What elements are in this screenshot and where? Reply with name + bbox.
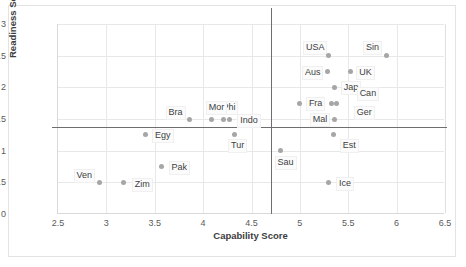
data-point[interactable] [159, 164, 164, 169]
data-point-label: Mor [206, 101, 228, 115]
data-point[interactable] [97, 180, 102, 185]
data-point-label: Indo [237, 114, 261, 128]
data-point[interactable] [384, 53, 389, 58]
gridline-vertical [300, 24, 301, 213]
data-point-label: Zim [132, 178, 153, 192]
y-axis-tick-label: 2 [0, 82, 6, 92]
y-axis-title: Readiness Score [7, 0, 18, 58]
data-point[interactable] [326, 53, 331, 58]
data-point[interactable] [348, 69, 353, 74]
data-point-label: Sin [363, 41, 382, 55]
gridline-vertical [445, 24, 446, 213]
data-point[interactable] [332, 85, 337, 90]
data-point[interactable] [332, 117, 337, 122]
x-axis-tick-label: 4 [183, 218, 223, 228]
chart-frame: Readiness Score Capability Score 00.511.… [8, 5, 456, 257]
gridline-vertical [397, 24, 398, 213]
data-point-label: UK [356, 66, 375, 80]
data-point-label: Ice [336, 177, 354, 191]
data-point-label: Pak [169, 161, 191, 175]
data-point-label: Can [357, 87, 380, 101]
x-axis-tick-label: 5 [280, 218, 320, 228]
y-axis-tick-label: 0.5 [0, 177, 6, 187]
data-point-label: USA [303, 41, 328, 55]
y-axis-tick-label: 1 [0, 146, 6, 156]
x-axis-tick-label: 6.5 [425, 218, 465, 228]
reference-line-vertical [271, 8, 272, 214]
data-point[interactable] [232, 132, 237, 137]
x-axis-tick-label: 3 [86, 218, 126, 228]
data-point-label: Mal [310, 113, 331, 127]
data-point-label: Est [340, 139, 359, 153]
y-axis-tick-label: 0 [0, 209, 6, 219]
data-point[interactable] [297, 101, 302, 106]
data-point[interactable] [325, 69, 330, 74]
data-point-label: Bra [166, 106, 186, 120]
x-axis-tick-label: 4.5 [232, 218, 272, 228]
data-point-label: Sau [275, 156, 297, 170]
data-point[interactable] [143, 132, 148, 137]
data-point[interactable] [187, 117, 192, 122]
data-point-label: Tur [228, 139, 247, 153]
data-point[interactable] [326, 180, 331, 185]
data-point[interactable] [334, 101, 339, 106]
x-axis-tick-label: 6 [377, 218, 417, 228]
data-point[interactable] [221, 117, 226, 122]
data-point-label: Aus [302, 66, 324, 80]
data-point[interactable] [329, 101, 334, 106]
data-point-label: Ger [354, 106, 375, 120]
data-point-label: Fra [306, 97, 326, 111]
y-axis-tick-label: 3 [0, 19, 6, 29]
data-point-label: Egy [152, 129, 174, 143]
x-axis-tick-label: 2.5 [38, 218, 78, 228]
gridline-vertical [155, 24, 156, 213]
data-point[interactable] [331, 132, 336, 137]
x-axis-title: Capability Score [57, 230, 444, 241]
data-point[interactable] [121, 180, 126, 185]
data-point-label: Ven [74, 169, 96, 183]
data-point[interactable] [227, 117, 232, 122]
x-axis-tick-label: 5.5 [328, 218, 368, 228]
data-point[interactable] [209, 117, 214, 122]
y-axis-tick-label: 1.5 [0, 114, 6, 124]
data-point[interactable] [278, 148, 283, 153]
gridline-vertical [203, 24, 204, 213]
y-axis-tick-label: 2.5 [0, 51, 6, 61]
x-axis-tick-label: 3.5 [135, 218, 175, 228]
gridline-vertical [106, 24, 107, 213]
plot-area: 00.511.522.532.533.544.555.566.5USASinAu… [57, 24, 444, 214]
